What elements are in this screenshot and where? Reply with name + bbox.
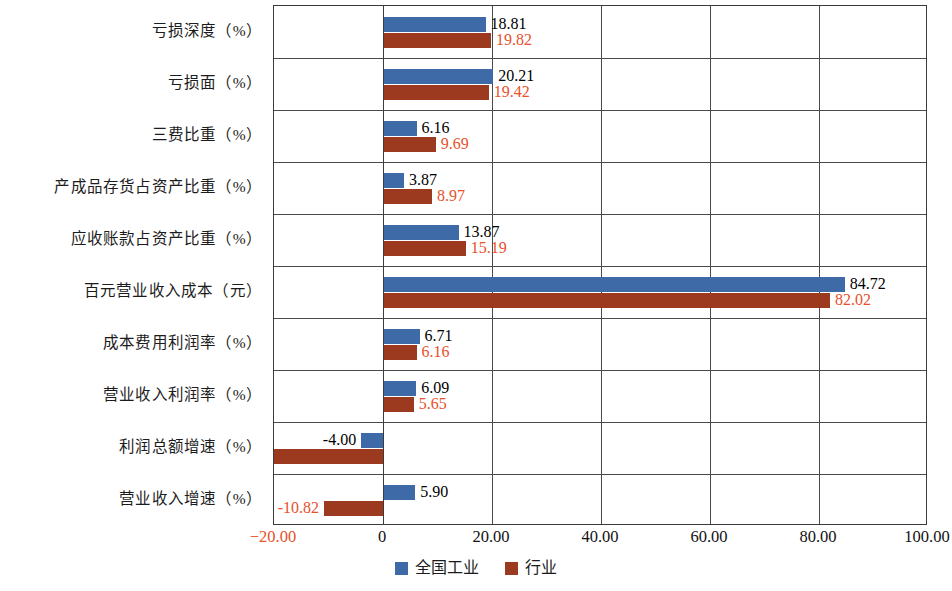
bar-0: [383, 225, 459, 240]
bar-1: [383, 189, 432, 204]
bar-1: [383, 85, 489, 100]
x-axis-tick-label: 60.00: [690, 529, 727, 546]
data-label: -4.00: [323, 432, 356, 448]
data-label: 18.81: [491, 16, 527, 32]
bar-0: [383, 277, 845, 292]
bar-0: [383, 173, 404, 188]
data-label: 8.97: [437, 188, 465, 204]
x-axis-tick-label: 0: [378, 529, 386, 546]
data-label: 19.42: [494, 84, 530, 100]
category-label: 产成品存货占资产比重（%）: [0, 179, 262, 195]
bar-1: [274, 449, 383, 464]
category-label: 利润总额增速（%）: [0, 439, 262, 455]
zero-axis-line: [383, 6, 384, 524]
gridline-horizontal: [274, 58, 926, 59]
category-label: 亏损深度（%）: [0, 23, 262, 39]
bar-0: [361, 433, 383, 448]
bar-0: [383, 69, 493, 84]
x-axis: −20.00020.0040.0060.0080.00100.00: [273, 529, 927, 555]
data-label: 6.16: [422, 344, 450, 360]
category-label: 营业收入增速（%）: [0, 491, 262, 507]
data-label: 19.82: [496, 32, 532, 48]
gridline-horizontal: [274, 474, 926, 475]
gridline-horizontal: [274, 318, 926, 319]
legend-label: 全国工业: [415, 560, 479, 576]
category-label: 应收账款占资产比重（%）: [0, 231, 262, 247]
legend-item[interactable]: 行业: [505, 560, 557, 576]
gridline-horizontal: [274, 110, 926, 111]
plot-area: 18.8119.8220.2119.426.169.693.878.9713.8…: [273, 5, 927, 525]
gridline-horizontal: [274, 214, 926, 215]
data-label: 5.65: [419, 396, 447, 412]
category-axis: 亏损深度（%）亏损面（%）三费比重（%）产成品存货占资产比重（%）应收账款占资产…: [0, 5, 268, 525]
bar-1: [383, 397, 414, 412]
category-label: 营业收入利润率（%）: [0, 387, 262, 403]
gridline-vertical: [710, 6, 711, 524]
chart-legend: 全国工业行业: [0, 560, 952, 576]
gridline-horizontal: [274, 370, 926, 371]
x-axis-tick-label: 80.00: [799, 529, 836, 546]
x-axis-tick-label: 40.00: [581, 529, 618, 546]
legend-swatch-icon: [395, 562, 408, 575]
data-label: 13.87: [464, 224, 500, 240]
bar-0: [383, 485, 415, 500]
bar-1: [324, 501, 383, 516]
gridline-vertical: [601, 6, 602, 524]
bar-1: [383, 241, 466, 256]
bar-0: [383, 121, 417, 136]
bar-0: [383, 17, 486, 32]
gridline-vertical: [819, 6, 820, 524]
category-label: 百元营业收入成本（元）: [0, 283, 262, 299]
data-label: 20.21: [498, 68, 534, 84]
data-label: 6.09: [421, 380, 449, 396]
bar-1: [383, 33, 491, 48]
gridline-horizontal: [274, 422, 926, 423]
bar-0: [383, 329, 420, 344]
x-axis-tick-label: −20.00: [250, 529, 296, 546]
data-label: 3.87: [409, 172, 437, 188]
data-label: -10.82: [278, 500, 319, 516]
category-label: 亏损面（%）: [0, 75, 262, 91]
legend-swatch-icon: [505, 562, 518, 575]
x-axis-tick-label: 100.00: [904, 529, 949, 546]
bar-chart: 亏损深度（%）亏损面（%）三费比重（%）产成品存货占资产比重（%）应收账款占资产…: [0, 0, 952, 591]
x-axis-tick-label: 20.00: [472, 529, 509, 546]
bar-1: [383, 293, 830, 308]
category-label: 三费比重（%）: [0, 127, 262, 143]
data-label: 5.90: [420, 484, 448, 500]
gridline-horizontal: [274, 162, 926, 163]
data-label: 6.16: [422, 120, 450, 136]
data-label: 6.71: [425, 328, 453, 344]
category-label: 成本费用利润率（%）: [0, 335, 262, 351]
data-label: 9.69: [441, 136, 469, 152]
legend-label: 行业: [525, 560, 557, 576]
gridline-horizontal: [274, 266, 926, 267]
data-label: 84.72: [850, 276, 886, 292]
data-label: 82.02: [835, 292, 871, 308]
bar-0: [383, 381, 416, 396]
legend-item[interactable]: 全国工业: [395, 560, 479, 576]
data-label: 15.19: [471, 240, 507, 256]
bar-1: [383, 137, 436, 152]
bar-1: [383, 345, 417, 360]
